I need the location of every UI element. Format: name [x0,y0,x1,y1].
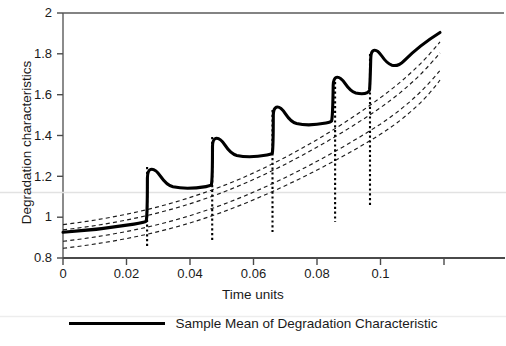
x-tick-label-0-04: 0.04 [160,266,220,281]
degradation-chart-figure: 2 1.8 1.6 1.4 1.2 1 0.8 0 0.02 0.04 0.06… [0,0,506,346]
y-tick-label-0-8: 0.8 [6,250,52,265]
x-tick-label-0-02: 0.02 [97,266,157,281]
x-tick-label-0: 0 [33,266,93,281]
x-tick-label-0-1: 0.1 [351,266,411,281]
y-tick-label-2: 2 [6,5,52,20]
legend-label: Sample Mean of Degradation Characteristi… [176,316,438,331]
confidence-bands [63,42,440,249]
x-axis-ticks [63,258,444,265]
sample-mean-curve [63,33,440,233]
plot-frame [63,13,505,258]
band-upper-inner [63,53,440,230]
y-axis-ticks [57,13,63,258]
chart-legend: Sample Mean of Degradation Characteristi… [0,316,506,331]
legend-line-swatch [69,322,165,325]
y-axis-title: Degradation characteristics [19,43,34,243]
band-upper-outer [63,42,440,225]
x-tick-label-0-08: 0.08 [287,266,347,281]
x-axis-title: Time units [0,287,506,302]
x-tick-label-0-06: 0.06 [224,266,284,281]
